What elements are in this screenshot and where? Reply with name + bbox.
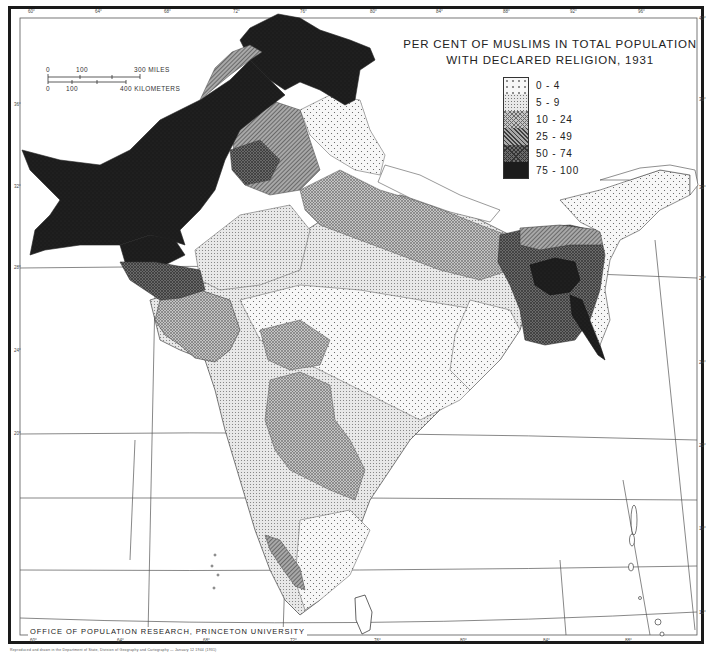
tick-top-6: 84° bbox=[436, 9, 443, 14]
map-title-line2: WITH DECLARED RELIGION, 1931 bbox=[400, 52, 700, 68]
tick-top-3: 72° bbox=[233, 9, 240, 14]
legend-label: 10 - 24 bbox=[536, 114, 573, 125]
region-sind-lower bbox=[120, 262, 205, 300]
tick-bottom-1: 64° bbox=[117, 638, 124, 643]
tick-top-9: 96° bbox=[638, 9, 645, 14]
legend-swatch-crosshatch bbox=[503, 111, 529, 128]
legend-item-10-24: 10 - 24 bbox=[503, 111, 579, 128]
tick-right-3: 28° bbox=[699, 276, 706, 281]
legend-item-50-74: 50 - 74 bbox=[503, 145, 579, 162]
tick-left-2: 28° bbox=[14, 265, 21, 270]
tick-bottom-3: 72° bbox=[290, 638, 297, 643]
tick-bottom-6: 84° bbox=[543, 638, 550, 643]
footer-note: Reproduced and drawn in the Department o… bbox=[10, 648, 216, 652]
choropleth-map bbox=[0, 0, 713, 656]
tick-left-0: 36° bbox=[14, 102, 21, 107]
tick-top-4: 76° bbox=[300, 9, 307, 14]
tick-left-4: 20° bbox=[14, 431, 21, 436]
scale-km-400: 400 KILOMETERS bbox=[120, 85, 180, 92]
scale-miles-300: 300 MILES bbox=[134, 66, 170, 73]
scale-bar-labels: 0 100 300 MILES 0 100 400 KILOMETERS bbox=[30, 66, 190, 96]
legend-label: 0 - 4 bbox=[536, 80, 560, 91]
map-title: PER CENT OF MUSLIMS IN TOTAL POPULATION … bbox=[400, 36, 700, 68]
tick-left-1: 32° bbox=[14, 184, 21, 189]
scale-km-100: 100 bbox=[66, 85, 78, 92]
scale-miles-100: 100 bbox=[76, 66, 88, 73]
tick-bottom-4: 76° bbox=[374, 638, 381, 643]
tick-top-0: 60° bbox=[28, 9, 35, 14]
region-gujarat bbox=[155, 290, 240, 362]
legend-swatch-dense-dots bbox=[503, 94, 529, 111]
legend-label: 25 - 49 bbox=[536, 131, 573, 142]
region-south-madras bbox=[295, 510, 370, 610]
tick-top-8: 92° bbox=[570, 9, 577, 14]
legend-swatch-solid-dark bbox=[503, 162, 529, 179]
tick-bottom-2: 68° bbox=[203, 638, 210, 643]
tick-right-0: 40° bbox=[699, 16, 706, 21]
legend-swatch-sparse-dots bbox=[503, 77, 529, 94]
tick-right-7: 12° bbox=[699, 610, 706, 615]
ceylon bbox=[355, 595, 372, 634]
tick-bottom-5: 80° bbox=[460, 638, 467, 643]
tick-left-3: 24° bbox=[14, 348, 21, 353]
map-title-line1: PER CENT OF MUSLIMS IN TOTAL POPULATION bbox=[400, 36, 700, 52]
tick-right-4: 24° bbox=[699, 360, 706, 365]
legend-label: 5 - 9 bbox=[536, 97, 560, 108]
credit-line: OFFICE OF POPULATION RESEARCH, PRINCETON… bbox=[28, 627, 307, 636]
legend-item-75-100: 75 - 100 bbox=[503, 162, 579, 179]
tick-top-1: 64° bbox=[95, 9, 102, 14]
legend-item-5-9: 5 - 9 bbox=[503, 94, 579, 111]
legend-item-0-4: 0 - 4 bbox=[503, 77, 579, 94]
tick-bottom-7: 88° bbox=[625, 638, 632, 643]
scale-km-0: 0 bbox=[46, 85, 50, 92]
scale-miles-0: 0 bbox=[46, 66, 50, 73]
tick-bottom-0: 60° bbox=[30, 638, 37, 643]
legend-swatch-dark-crosshatch bbox=[503, 145, 529, 162]
tick-right-1: 36° bbox=[699, 97, 706, 102]
tick-right-5: 20° bbox=[699, 443, 706, 448]
legend-label: 75 - 100 bbox=[536, 165, 579, 176]
legend-label: 50 - 74 bbox=[536, 148, 573, 159]
tick-top-7: 88° bbox=[503, 9, 510, 14]
tick-right-6: 16° bbox=[699, 526, 706, 531]
legend: 0 - 4 5 - 9 10 - 24 25 - 49 50 - 74 75 -… bbox=[503, 77, 579, 179]
legend-swatch-diagonal-lines bbox=[503, 128, 529, 145]
tick-top-2: 68° bbox=[164, 9, 171, 14]
tick-top-5: 80° bbox=[370, 9, 377, 14]
tick-right-2: 32° bbox=[699, 185, 706, 190]
legend-item-25-49: 25 - 49 bbox=[503, 128, 579, 145]
